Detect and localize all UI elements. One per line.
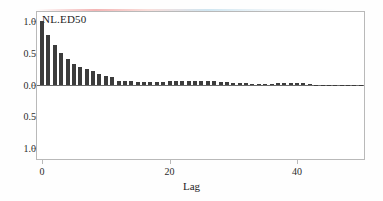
acf-bar: [352, 85, 356, 87]
acf-bar: [219, 82, 223, 85]
acf-bar: [295, 83, 299, 85]
acf-bar: [225, 82, 229, 85]
acf-bar: [199, 81, 203, 85]
acf-bar: [321, 85, 325, 86]
x-axis-tick-label: 0: [40, 166, 45, 177]
x-axis-tick: [170, 160, 171, 164]
acf-bar: [282, 83, 286, 85]
acf-bar: [244, 83, 248, 84]
acf-bar: [333, 85, 337, 87]
acf-bar: [231, 83, 235, 85]
x-axis-tick: [42, 160, 43, 164]
acf-bar: [308, 84, 312, 85]
acf-bar: [161, 82, 165, 85]
acf-bar: [187, 81, 191, 85]
acf-bar: [276, 83, 280, 84]
acf-bar: [212, 81, 216, 84]
x-axis-tick: [297, 160, 298, 164]
acf-bar: [46, 35, 50, 85]
acf-bar: [238, 83, 242, 84]
acf-bar: [40, 21, 44, 84]
acf-bar: [97, 74, 101, 84]
acf-bar: [250, 84, 254, 85]
acf-bar: [59, 53, 63, 85]
acf-bar: [155, 82, 159, 85]
acf-bar: [142, 82, 146, 85]
acf-bar: [78, 67, 82, 85]
acf-bar: [129, 81, 133, 84]
acf-bar: [53, 45, 57, 85]
x-axis-tick-label: 20: [165, 166, 175, 177]
acf-bar: [340, 85, 344, 87]
acf-bar: [263, 84, 267, 85]
x-axis-tick-label: 40: [292, 166, 302, 177]
acf-bar: [123, 81, 127, 84]
acf-bar: [257, 84, 261, 85]
x-axis-label: Lag: [0, 180, 383, 192]
acf-bar: [91, 71, 95, 85]
acf-bar: [72, 64, 76, 85]
acf-bar: [270, 84, 274, 85]
acf-bar: [85, 69, 89, 84]
acf-bar: [66, 59, 70, 84]
acf-bar: [301, 83, 305, 84]
acf-bar: [206, 81, 210, 85]
acf-chart-figure: NL.ED50 1.00.50.00.51.0 02040 Lag: [0, 0, 383, 201]
acf-bar: [359, 85, 363, 86]
acf-bar: [289, 83, 293, 85]
acf-bar: [346, 85, 350, 87]
acf-bar: [193, 81, 197, 85]
acf-bar: [110, 77, 114, 85]
acf-bar: [117, 81, 121, 85]
acf-bar: [104, 76, 108, 85]
plot-area: [37, 12, 364, 159]
acf-bar: [327, 85, 331, 86]
acf-bar: [136, 82, 140, 85]
acf-bar: [180, 81, 184, 84]
acf-bar: [314, 85, 318, 86]
acf-bar: [148, 82, 152, 85]
acf-bar: [168, 81, 172, 84]
acf-bar: [174, 81, 178, 84]
